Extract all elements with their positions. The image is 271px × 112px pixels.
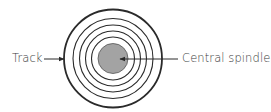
central-spindle-label: Central spindle <box>182 53 270 65</box>
track-label: Track <box>12 53 43 65</box>
